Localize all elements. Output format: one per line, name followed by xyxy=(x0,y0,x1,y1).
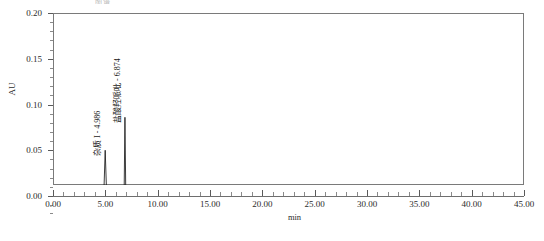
x-tick-minor xyxy=(409,192,410,196)
x-tick-label: 40.00 xyxy=(452,199,492,209)
x-tick-major xyxy=(472,190,473,196)
x-tick-minor xyxy=(168,192,169,196)
x-tick-minor xyxy=(95,192,96,196)
y-tick-label: 0.05 xyxy=(8,145,42,155)
x-tick-minor xyxy=(273,192,274,196)
x-tick-minor xyxy=(220,192,221,196)
y-tick-label: 0.20 xyxy=(8,8,42,18)
figure-title-clipped: 图谱 xyxy=(95,0,215,4)
x-tick-label: 20.00 xyxy=(242,199,282,209)
x-tick-major xyxy=(158,190,159,196)
x-tick-minor xyxy=(84,192,85,196)
x-tick-major xyxy=(262,190,263,196)
x-tick-label: 30.00 xyxy=(347,199,387,209)
x-tick-minor xyxy=(283,192,284,196)
y-tick-label: 0.10 xyxy=(8,100,42,110)
x-tick-major xyxy=(210,190,211,196)
x-tick-minor xyxy=(304,192,305,196)
x-tick-minor xyxy=(503,192,504,196)
x-tick-minor xyxy=(514,192,515,196)
peak-label: 杂质 I - 4.986 xyxy=(91,111,102,156)
x-tick-minor xyxy=(346,192,347,196)
x-axis-line xyxy=(53,196,524,197)
x-tick-minor xyxy=(252,192,253,196)
x-tick-minor xyxy=(294,192,295,196)
x-tick-minor xyxy=(147,192,148,196)
x-tick-minor xyxy=(74,192,75,196)
x-axis-title: min xyxy=(0,212,544,222)
x-tick-minor xyxy=(137,192,138,196)
chromatogram-trace xyxy=(53,13,524,185)
x-tick-major xyxy=(105,190,106,196)
x-tick-minor xyxy=(388,192,389,196)
x-tick-minor xyxy=(398,192,399,196)
x-tick-minor xyxy=(493,192,494,196)
x-tick-minor xyxy=(200,192,201,196)
peak-label: 盐酸羟哌吡 - 6.874 xyxy=(111,59,122,124)
x-tick-minor xyxy=(231,192,232,196)
x-tick-minor xyxy=(179,192,180,196)
x-tick-minor xyxy=(357,192,358,196)
x-tick-major xyxy=(524,190,525,196)
x-tick-minor xyxy=(377,192,378,196)
x-tick-minor xyxy=(325,192,326,196)
x-tick-label: 10.00 xyxy=(138,199,178,209)
x-tick-major xyxy=(367,190,368,196)
y-tick-minor xyxy=(50,187,53,188)
x-tick-label: 0.00 xyxy=(33,199,73,209)
x-tick-minor xyxy=(451,192,452,196)
x-tick-minor xyxy=(461,192,462,196)
x-tick-major xyxy=(419,190,420,196)
x-tick-minor xyxy=(440,192,441,196)
x-tick-minor xyxy=(63,192,64,196)
x-tick-label: 15.00 xyxy=(190,199,230,209)
chromatogram-figure: 图谱 AU 0.000.050.100.150.20 0.005.0010.00… xyxy=(0,0,544,241)
x-tick-minor xyxy=(430,192,431,196)
x-tick-label: 35.00 xyxy=(399,199,439,209)
x-tick-minor xyxy=(126,192,127,196)
x-tick-major xyxy=(315,190,316,196)
y-tick-label: 0.15 xyxy=(8,54,42,64)
x-tick-major xyxy=(53,190,54,196)
x-tick-label: 25.00 xyxy=(295,199,335,209)
x-tick-label: 45.00 xyxy=(504,199,544,209)
x-tick-minor xyxy=(241,192,242,196)
x-tick-label: 5.00 xyxy=(85,199,125,209)
trace-path xyxy=(53,117,524,185)
x-tick-minor xyxy=(482,192,483,196)
x-tick-minor xyxy=(336,192,337,196)
x-tick-minor xyxy=(189,192,190,196)
x-tick-minor xyxy=(116,192,117,196)
